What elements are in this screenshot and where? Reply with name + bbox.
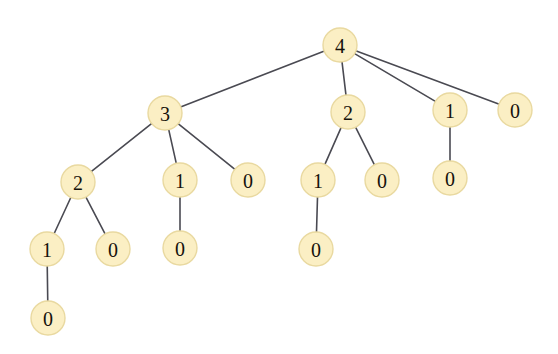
- tree-node[interactable]: 0: [231, 163, 265, 197]
- tree-node-circle[interactable]: [61, 165, 95, 199]
- tree-node[interactable]: 0: [433, 161, 467, 195]
- tree-node-circle[interactable]: [323, 28, 357, 62]
- tree-edge: [324, 127, 341, 166]
- tree-edge: [54, 197, 72, 235]
- tree-edge: [354, 53, 436, 102]
- tree-edge: [342, 61, 346, 96]
- tree-node-circle[interactable]: [498, 93, 532, 127]
- tree-node[interactable]: 4: [323, 28, 357, 62]
- tree-node[interactable]: 2: [331, 95, 365, 129]
- tree-node[interactable]: 3: [148, 96, 182, 130]
- tree-node-circle[interactable]: [433, 161, 467, 195]
- tree-node[interactable]: 2: [61, 165, 95, 199]
- tree-node-circle[interactable]: [31, 301, 65, 335]
- tree-node-circle[interactable]: [299, 232, 333, 266]
- tree-edge: [355, 126, 375, 165]
- tree-diagram-canvas: 4321021010010000: [0, 0, 558, 354]
- tree-edge: [316, 196, 317, 233]
- tree-node-circle[interactable]: [231, 163, 265, 197]
- tree-node[interactable]: 0: [31, 301, 65, 335]
- tree-node[interactable]: 0: [299, 232, 333, 266]
- tree-node-circle[interactable]: [148, 96, 182, 130]
- tree-node-circle[interactable]: [96, 232, 130, 266]
- tree-node[interactable]: 1: [30, 232, 64, 266]
- tree-node-circle[interactable]: [365, 163, 399, 197]
- tree-edge: [169, 129, 177, 165]
- tree-node[interactable]: 0: [163, 231, 197, 265]
- tree-node[interactable]: 1: [301, 163, 335, 197]
- tree-node[interactable]: 1: [163, 163, 197, 197]
- tree-node-circle[interactable]: [433, 93, 467, 127]
- tree-edge: [177, 123, 235, 170]
- tree-edge: [85, 196, 105, 235]
- tree-node[interactable]: 0: [96, 232, 130, 266]
- tree-diagram-svg: 4321021010010000: [0, 0, 558, 354]
- node-layer: 4321021010010000: [30, 28, 532, 335]
- tree-node-circle[interactable]: [30, 232, 64, 266]
- tree-node[interactable]: 0: [365, 163, 399, 197]
- tree-edge: [47, 265, 48, 302]
- tree-edge: [180, 51, 325, 107]
- tree-edge: [91, 123, 153, 172]
- tree-node-circle[interactable]: [163, 163, 197, 197]
- tree-node-circle[interactable]: [331, 95, 365, 129]
- tree-node[interactable]: 0: [498, 93, 532, 127]
- tree-node-circle[interactable]: [163, 231, 197, 265]
- tree-node-circle[interactable]: [301, 163, 335, 197]
- tree-node[interactable]: 1: [433, 93, 467, 127]
